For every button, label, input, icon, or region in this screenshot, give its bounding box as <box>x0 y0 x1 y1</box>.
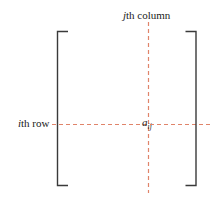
matrix-index-diagram: jth column ith row aij <box>0 0 216 203</box>
diagram-canvas <box>0 0 216 203</box>
column-label-text: th column <box>126 9 170 21</box>
ith-row-label: ith row <box>18 118 49 129</box>
matrix-right-bracket <box>186 32 197 186</box>
row-label-text: th row <box>21 117 49 129</box>
jth-column-label: jth column <box>123 10 170 21</box>
matrix-entry-label: aij <box>142 117 152 128</box>
entry-subscript: ij <box>148 122 153 131</box>
entry-base-symbol: a <box>142 116 148 128</box>
matrix-left-bracket <box>58 32 69 186</box>
